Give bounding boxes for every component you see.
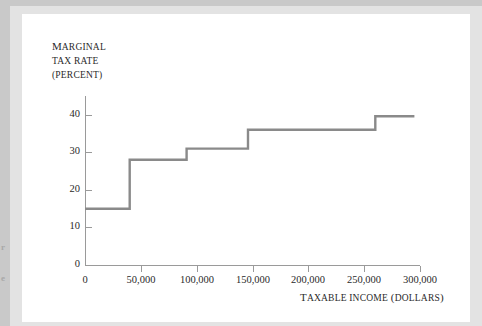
y-axis-title-line-3: (PERCENT) [52, 68, 106, 82]
y-axis-title: MARGINAL TAX RATE (PERCENT) [52, 38, 106, 82]
marginal-tax-rate-chart: 010203040 050,000100,000150,000200,00025… [0, 0, 482, 326]
y-axis-title-line-2: TAX RATE [52, 54, 106, 68]
page-background: r e 010203040 050,000100,000150,000200,0… [0, 0, 482, 326]
y-axis-title-line-1: MARGINAL [52, 38, 106, 54]
x-axis-title: TAXABLE INCOME (DOLLARS) [300, 291, 444, 303]
